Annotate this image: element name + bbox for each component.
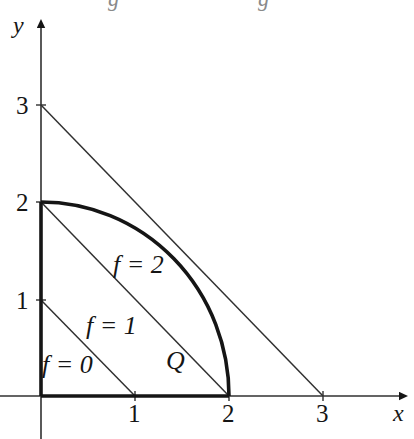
x-tick-label-2: 2	[222, 401, 235, 426]
contour-label-f2-text: f = 2	[113, 250, 164, 279]
contour-label-f1: f = 1	[86, 313, 137, 339]
y-tick-label-1: 1	[16, 288, 29, 313]
x-tick-label-3: 3	[316, 401, 329, 426]
contour-label-f2: f = 2	[113, 252, 164, 278]
y-tick-label-2: 2	[16, 190, 29, 215]
contour-label-f1-text: f = 1	[86, 311, 137, 340]
y-axis-label: y	[13, 13, 24, 37]
contour-label-f0-text: f = 0	[42, 350, 93, 379]
x-axis-label: x	[393, 401, 404, 425]
x-tick-label-1: 1	[128, 401, 141, 426]
contour-label-f0: f = 0	[42, 352, 93, 378]
y-tick-label-3: 3	[16, 93, 29, 118]
figure-canvas: g g y x 1	[0, 0, 414, 439]
region-label-q: Q	[166, 348, 185, 374]
